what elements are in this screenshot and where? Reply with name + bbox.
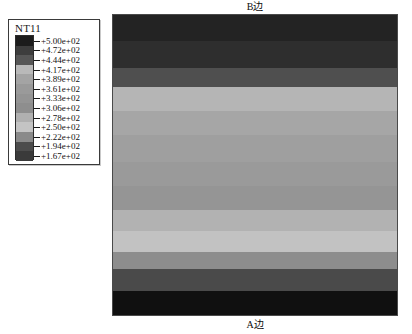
legend-swatch <box>16 65 33 75</box>
legend-swatch <box>16 103 33 113</box>
legend-swatch <box>16 74 33 84</box>
legend-body: +5.00e+02+4.72e+02+4.44e+02+4.17e+02+3.8… <box>15 35 96 162</box>
legend-tick <box>34 70 40 71</box>
legend-tick <box>34 89 40 90</box>
legend-title: NT11 <box>15 22 41 34</box>
legend-tick <box>34 137 40 138</box>
edge-label-bottom: A边 <box>112 319 398 330</box>
legend-swatch <box>16 113 33 123</box>
legend-swatch <box>16 36 33 46</box>
legend-tick <box>34 108 40 109</box>
legend-color-bar <box>15 35 34 160</box>
legend-tick <box>34 156 40 157</box>
contour-plot-frame <box>112 14 398 316</box>
contour-band <box>113 291 397 315</box>
contour-band <box>113 210 397 231</box>
contour-band <box>113 269 397 292</box>
contour-band <box>113 68 397 88</box>
legend-tick <box>34 41 40 42</box>
contour-plot <box>112 14 398 316</box>
contour-band <box>113 87 397 111</box>
contour-band <box>113 162 397 186</box>
legend-panel: NT11 +5.00e+02+4.72e+02+4.44e+02+4.17e+0… <box>8 19 100 165</box>
contour-band <box>113 231 397 252</box>
legend-tick <box>34 118 40 119</box>
legend-swatch <box>16 84 33 94</box>
legend-tick <box>34 98 40 99</box>
contour-band <box>113 135 397 162</box>
legend-tick <box>34 60 40 61</box>
legend-swatch <box>16 132 33 142</box>
legend-tick <box>34 146 40 147</box>
legend-tick <box>34 79 40 80</box>
edge-label-top: B边 <box>112 1 398 12</box>
contour-band <box>113 111 397 135</box>
legend-tick <box>34 50 40 51</box>
legend-swatch <box>16 94 33 104</box>
legend-swatch <box>16 46 33 56</box>
legend-tick-labels: +5.00e+02+4.72e+02+4.44e+02+4.17e+02+3.8… <box>41 36 96 161</box>
contour-band <box>113 252 397 269</box>
contour-band <box>113 41 397 68</box>
legend-swatch <box>16 142 33 152</box>
contour-band <box>113 15 397 41</box>
contour-band-stack <box>113 15 397 315</box>
legend-tick-label: +1.67e+02 <box>41 152 80 161</box>
legend-swatch <box>16 122 33 132</box>
legend-tick-marks <box>34 36 41 161</box>
contour-band <box>113 186 397 210</box>
legend-swatch <box>16 55 33 65</box>
legend-tick <box>34 127 40 128</box>
legend-swatch <box>16 151 33 161</box>
